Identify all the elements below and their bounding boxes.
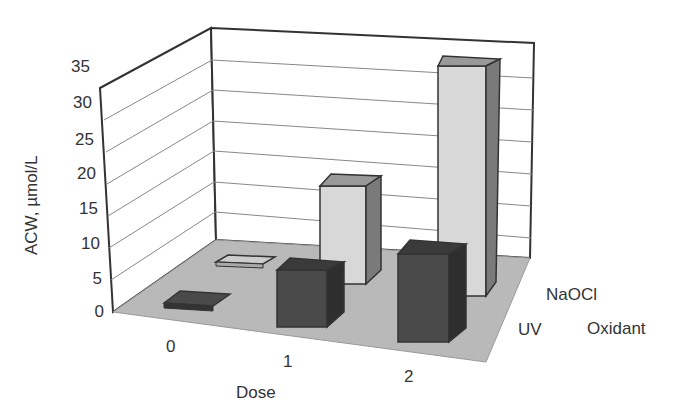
y-tick-20: 20 bbox=[66, 164, 96, 184]
x-tick-1: 1 bbox=[283, 352, 292, 372]
y-tick-15: 15 bbox=[68, 199, 98, 219]
y-tick-0: 0 bbox=[74, 302, 104, 322]
y-tick-25: 25 bbox=[64, 130, 94, 150]
x-axis-label: Dose bbox=[236, 383, 276, 403]
y-tick-10: 10 bbox=[70, 234, 100, 254]
x-tick-0: 0 bbox=[166, 337, 175, 357]
x-tick-2: 2 bbox=[404, 367, 413, 387]
y-axis-label: ACW, µmol/L bbox=[22, 155, 42, 255]
z-axis-label: Oxidant bbox=[587, 319, 646, 339]
series-label-naocl: NaOCl bbox=[546, 285, 597, 305]
y-tick-5: 5 bbox=[72, 269, 102, 289]
series-label-uv: UV bbox=[518, 320, 542, 340]
y-tick-35: 35 bbox=[60, 57, 90, 77]
y-tick-30: 30 bbox=[62, 93, 92, 113]
3d-bar-chart bbox=[0, 0, 688, 420]
